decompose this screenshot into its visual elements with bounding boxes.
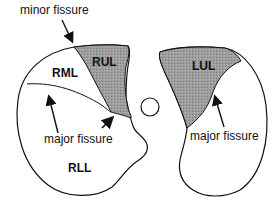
right-major-fissure-label: major fissure bbox=[44, 132, 113, 146]
minor-fissure-label: minor fissure bbox=[20, 3, 89, 17]
rml-label: RML bbox=[52, 66, 78, 80]
rll-label: RLL bbox=[68, 161, 91, 175]
lung-lobes-diagram: minor fissure RUL RML RLL major fissure … bbox=[0, 0, 279, 211]
trachea bbox=[141, 98, 159, 116]
lul-label: LUL bbox=[192, 59, 215, 73]
minor-fissure-arrow bbox=[62, 20, 72, 41]
left-major-fissure-label: major fissure bbox=[190, 129, 259, 143]
rul-label: RUL bbox=[92, 55, 117, 69]
